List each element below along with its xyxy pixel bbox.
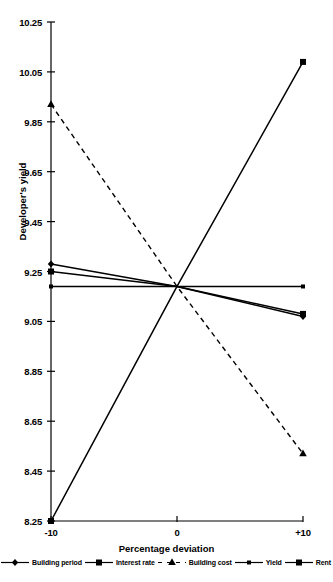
- chart-legend: Building periodInterest rateBuilding cos…: [0, 558, 333, 567]
- legend-swatch-triangle-icon: [157, 558, 187, 567]
- x-axis-title: Percentage deviation: [0, 543, 333, 554]
- y-axis-tick-label: 10.05: [0, 66, 42, 77]
- series-building-period: [48, 260, 306, 320]
- series-line: [51, 104, 303, 453]
- legend-item-interest-rate[interactable]: Interest rate: [84, 558, 157, 567]
- y-axis-tick-label: 9.25: [0, 266, 42, 277]
- legend-label: Yield: [265, 559, 284, 566]
- series-rent: [48, 59, 306, 524]
- data-point-marker-3-0: [49, 284, 53, 288]
- y-axis-tick-label: 8.45: [0, 466, 42, 477]
- developers-yield-sensitivity-chart: 8.258.458.658.859.059.259.459.659.8510.0…: [0, 0, 333, 582]
- legend-item-building-cost[interactable]: Building cost: [157, 558, 234, 567]
- y-axis-title: Developer's yield: [17, 142, 28, 262]
- data-point-marker-3-2: [301, 284, 305, 288]
- legend-swatch-small-square-icon: [234, 558, 264, 567]
- x-axis-tick-label: -10: [44, 527, 57, 538]
- legend-label: Building period: [31, 559, 84, 566]
- data-point-marker-1-0: [48, 269, 54, 275]
- legend-swatch-diamond-icon: [0, 558, 30, 567]
- legend-item-yield[interactable]: Yield: [234, 558, 284, 567]
- y-axis-tick-label: 8.65: [0, 416, 42, 427]
- x-axis-tick-label: 0: [174, 527, 179, 538]
- data-point-marker-0-0: [48, 260, 54, 267]
- legend-label: Rent: [315, 559, 333, 566]
- data-point-marker-4-2: [300, 59, 306, 65]
- series-line: [51, 62, 303, 521]
- plot-area: [0, 0, 333, 582]
- legend-swatch-square-icon: [84, 558, 114, 567]
- data-point-marker-legend-1: [96, 560, 102, 566]
- data-point-marker-4-0: [48, 518, 54, 524]
- y-axis-tick-label: 9.85: [0, 116, 42, 127]
- x-axis-tick-label: +10: [295, 527, 311, 538]
- legend-label: Building cost: [188, 559, 234, 566]
- data-point-marker-2-0: [47, 100, 55, 107]
- data-series-group: [47, 59, 307, 524]
- series-building-cost: [47, 100, 307, 456]
- data-point-marker-1-2: [300, 311, 306, 317]
- series-line: [51, 264, 303, 316]
- data-point-marker-legend-4: [296, 560, 302, 566]
- data-point-marker-legend-3: [247, 561, 251, 565]
- series-interest-rate: [48, 269, 306, 317]
- data-point-marker-legend-2: [168, 558, 176, 565]
- y-axis-tick-label: 8.85: [0, 366, 42, 377]
- legend-label: Interest rate: [115, 559, 157, 566]
- y-axis-tick-label: 9.05: [0, 316, 42, 327]
- y-axis-tick-label: 10.25: [0, 17, 42, 28]
- data-point-marker-legend-0: [12, 559, 18, 566]
- y-axis-tick-label: 8.25: [0, 516, 42, 527]
- legend-swatch-square-icon: [284, 558, 314, 567]
- legend-item-rent[interactable]: Rent: [284, 558, 333, 567]
- legend-item-building-period[interactable]: Building period: [0, 558, 84, 567]
